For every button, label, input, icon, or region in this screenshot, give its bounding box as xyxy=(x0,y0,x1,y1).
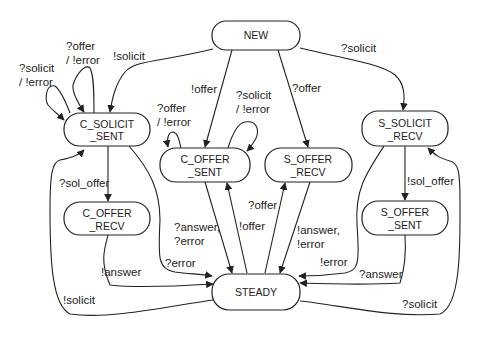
edge-label: !sol_offer xyxy=(407,175,454,187)
state-label: _RECV xyxy=(88,220,124,232)
state-label: C_OFFER xyxy=(82,207,131,219)
state-s-offer-sent: S_OFFER _SENT xyxy=(362,201,448,235)
edge-c-offer-sent-self-solicit xyxy=(228,122,258,151)
state-label: S_SOLICIT xyxy=(378,117,432,129)
edge-c-solicit-sent-self-offer xyxy=(73,67,94,113)
edge-label: / !error xyxy=(236,103,270,115)
edge-c-solicit-sent-self-solicit xyxy=(46,86,70,120)
state-label: S_OFFER xyxy=(284,153,333,165)
edge-label: !solicit xyxy=(63,294,96,306)
state-label: _SENT xyxy=(187,166,222,178)
state-label: _RECV xyxy=(289,166,325,178)
edge-c-offer-sent-self-offer xyxy=(168,132,181,148)
edge-label: ?solicit xyxy=(236,89,272,101)
edge-label: !offer xyxy=(239,220,265,232)
edge-label: ?offer xyxy=(248,199,277,211)
edge-label: ?offer xyxy=(292,82,321,94)
state-label: S_OFFER xyxy=(381,206,430,218)
edge-label: !answer xyxy=(101,266,141,278)
edge-label: ?solicit xyxy=(402,298,438,310)
edge-label: ?solicit xyxy=(19,62,55,74)
state-new: NEW xyxy=(212,21,300,50)
state-label: _SENT xyxy=(387,219,422,231)
edge-new-to-s-offer-recv xyxy=(278,50,308,147)
state-label: STEADY xyxy=(235,286,277,298)
edge-label: / !error xyxy=(157,116,191,128)
edge-steady-to-s-offer-recv xyxy=(265,183,285,273)
edge-label: ?sol_offer xyxy=(59,177,109,189)
edge-label: ?offer xyxy=(157,102,186,114)
edge-label: ?answer, xyxy=(174,221,220,233)
edge-label: ?offer xyxy=(66,40,95,52)
edge-label: / !error xyxy=(19,76,53,88)
state-c-solicit-sent: C_SOLICIT _SENT xyxy=(64,113,150,146)
edge-label: / !error xyxy=(66,54,100,66)
state-s-solicit-recv: S_SOLICIT _RECV xyxy=(362,111,448,146)
edge-label: !answer, xyxy=(297,224,340,236)
state-label: _RECV xyxy=(386,130,422,142)
edge-label: !solicit xyxy=(113,50,146,62)
state-steady: STEADY xyxy=(212,274,300,310)
edge-new-to-s-solicit-recv xyxy=(300,48,404,110)
state-label: _SENT xyxy=(89,130,124,142)
edge-label: ?answer xyxy=(359,268,403,280)
state-label: C_SOLICIT xyxy=(80,118,135,130)
state-c-offer-recv: C_OFFER _RECV xyxy=(64,202,150,235)
state-label: NEW xyxy=(244,29,269,41)
edge-label: ?error xyxy=(165,257,196,269)
edge-label: ?solicit xyxy=(341,42,377,54)
edge-new-to-c-offer-sent xyxy=(205,50,232,147)
state-s-offer-recv: S_OFFER _RECV xyxy=(265,148,352,182)
edge-label: !offer xyxy=(191,83,217,95)
state-c-offer-sent: C_OFFER _SENT xyxy=(160,148,250,182)
state-diagram: NEW C_SOLICIT _SENT C_OFFER _SENT S_OFFE… xyxy=(0,0,482,337)
edge-label: !error xyxy=(297,238,325,250)
edge-label: ?error xyxy=(174,235,205,247)
state-label: C_OFFER xyxy=(180,153,229,165)
edge-label: !error xyxy=(320,256,348,268)
